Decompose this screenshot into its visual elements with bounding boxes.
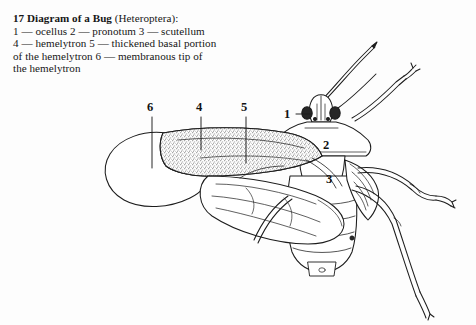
callout-6: 6 [147, 101, 153, 114]
callout-4: 4 [196, 101, 202, 114]
callout-1: 1 [284, 108, 290, 121]
antenna-left-shape [318, 42, 377, 104]
bug-diagram [0, 0, 476, 325]
callout-2: 2 [323, 139, 329, 152]
antenna-right-shape [338, 74, 376, 108]
figure-page: 17 Diagram of a Bug (Heteroptera): 1 — o… [0, 0, 476, 325]
callout-5: 5 [241, 101, 247, 114]
callout-3: 3 [326, 173, 332, 186]
foreleg-right-shape [352, 63, 420, 121]
